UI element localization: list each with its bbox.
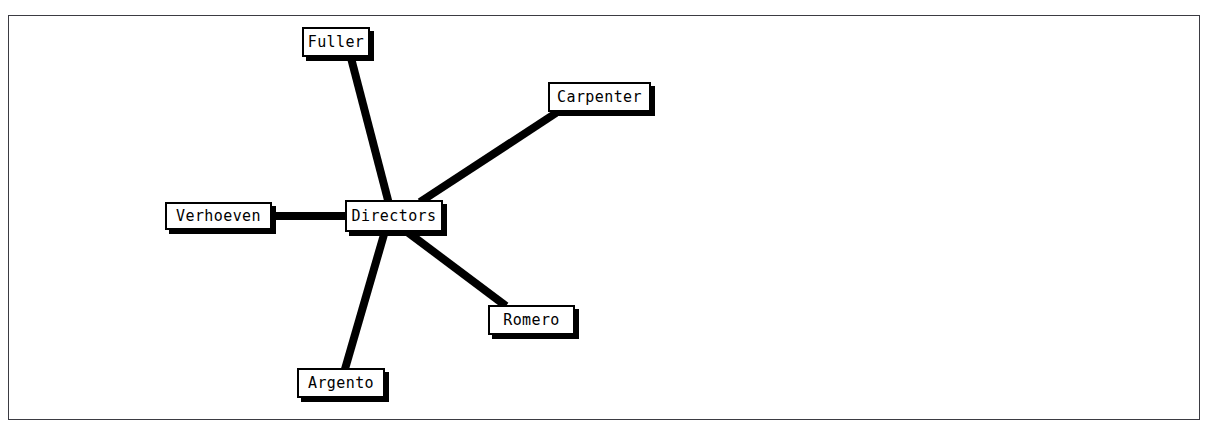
graph-node-label-romero: Romero <box>503 312 560 327</box>
graph-node-romero[interactable]: Romero <box>488 305 575 335</box>
diagram-viewport: DirectorsFullerCarpenterVerhoevenRomeroA… <box>0 0 1209 435</box>
graph-node-label-directors: Directors <box>352 208 437 223</box>
graph-node-verhoeven[interactable]: Verhoeven <box>165 202 272 230</box>
graph-node-fuller[interactable]: Fuller <box>302 27 370 57</box>
graph-node-label-verhoeven: Verhoeven <box>176 208 261 223</box>
graph-node-label-argento: Argento <box>308 375 374 390</box>
graph-node-directors[interactable]: Directors <box>345 200 443 232</box>
graph-node-label-fuller: Fuller <box>308 34 365 49</box>
graph-node-label-carpenter: Carpenter <box>557 89 642 104</box>
graph-node-argento[interactable]: Argento <box>297 368 385 398</box>
graph-node-carpenter[interactable]: Carpenter <box>548 82 651 112</box>
